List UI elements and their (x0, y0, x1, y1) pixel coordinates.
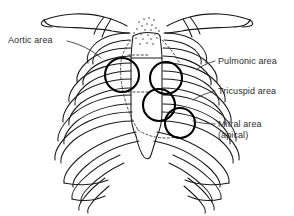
clavicle-right-icon (41, 14, 129, 33)
marker-tricuspid-area[interactable] (143, 89, 175, 121)
label-pulmonic-area: Pulmonic area (218, 56, 277, 67)
label-tricuspid-area: Tricuspid area (218, 86, 276, 97)
leader-mitral (193, 121, 215, 124)
shoulder-left-icon (183, 17, 200, 37)
auscultation-markers (105, 58, 195, 138)
shoulder-right-icon (94, 17, 111, 37)
figure-canvas: Aortic area Pulmonic area Tricuspid area… (0, 0, 294, 216)
clavicle-left-icon (165, 14, 253, 33)
thorax-diagram (0, 0, 294, 216)
suprasternal-notch-stipple (133, 17, 160, 45)
label-mitral-line1: Mitral area (218, 119, 262, 130)
ribs-right-icon (55, 33, 139, 213)
label-mitral-area: Mitral area (apical) (218, 119, 262, 141)
label-mitral-line2: (apical) (218, 130, 262, 141)
cardiac-outline-dotted (121, 40, 180, 138)
label-aortic-area: Aortic area (8, 35, 53, 46)
